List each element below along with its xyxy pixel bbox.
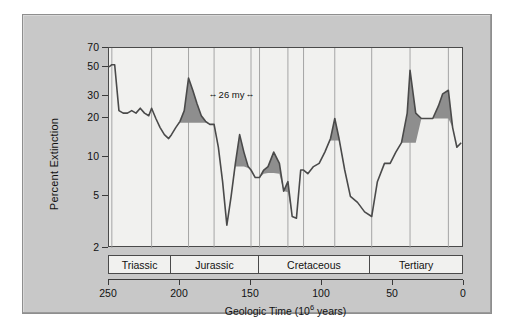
x-title-suffix: years) <box>314 305 346 317</box>
x-tick-mark <box>108 280 109 285</box>
arrow-right-icon: ↔ <box>245 90 254 99</box>
x-axis: 250200150100500 <box>108 279 463 280</box>
x-axis-title: Geologic Time (106 years) <box>108 303 463 317</box>
y-tick-mark <box>102 66 108 67</box>
y-tick-label: 5 <box>23 190 99 201</box>
y-tick-mark <box>102 195 108 196</box>
geologic-period-bands: TriassicJurassicCretaceousTertiary <box>108 255 463 274</box>
y-tick-label: 70 <box>23 42 99 53</box>
x-tick-mark <box>179 280 180 285</box>
y-tick-label: 2 <box>23 242 99 253</box>
period-band-triassic: Triassic <box>109 256 171 273</box>
x-tick-label: 50 <box>386 287 398 299</box>
extinction-curve-line <box>109 65 461 225</box>
y-tick-label: 50 <box>23 61 99 72</box>
y-tick-mark <box>102 117 108 118</box>
x-tick-mark <box>463 280 464 285</box>
annotation-label: 26 my <box>219 89 245 100</box>
periodicity-annotation: ↔ 26 my ↔ <box>213 89 250 100</box>
y-tick-mark <box>102 247 108 248</box>
extinction-curve <box>109 48 464 248</box>
arrow-left-icon: ↔ <box>209 90 218 99</box>
period-band-tertiary: Tertiary <box>370 256 462 273</box>
x-tick-mark <box>392 280 393 285</box>
figure-panel: Percent Extinction 705030201052 ↔ 26 my … <box>22 14 492 314</box>
y-tick-mark <box>102 95 108 96</box>
x-title-prefix: Geologic Time (10 <box>225 305 310 317</box>
x-tick-label: 250 <box>99 287 117 299</box>
y-tick-mark <box>102 156 108 157</box>
y-tick-label: 30 <box>23 89 99 100</box>
period-band-jurassic: Jurassic <box>171 256 259 273</box>
x-tick-label: 0 <box>460 287 466 299</box>
period-band-cretaceous: Cretaceous <box>259 256 371 273</box>
plot-area <box>108 47 463 247</box>
x-tick-mark <box>250 280 251 285</box>
x-tick-label: 150 <box>241 287 259 299</box>
extinction-periodicity-figure: Percent Extinction 705030201052 ↔ 26 my … <box>0 0 512 336</box>
y-tick-mark <box>102 47 108 48</box>
y-tick-label: 20 <box>23 112 99 123</box>
x-tick-label: 100 <box>312 287 330 299</box>
y-tick-label: 10 <box>23 151 99 162</box>
x-tick-mark <box>321 280 322 285</box>
x-tick-label: 200 <box>170 287 188 299</box>
